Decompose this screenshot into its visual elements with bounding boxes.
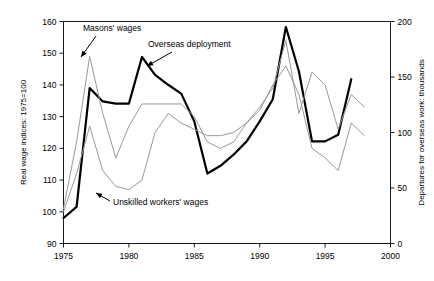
y-tick-label-left: 140	[42, 80, 56, 90]
y-tick-label-left: 100	[42, 207, 56, 217]
x-tick-label: 1990	[250, 251, 269, 261]
y-tick-label-left: 160	[42, 17, 56, 27]
series-line-unskilled-workers-wages	[64, 66, 365, 212]
y-tick-label-right: 0	[398, 239, 403, 249]
x-tick-label: 1980	[119, 251, 138, 261]
y-tick-label-right: 100	[398, 128, 412, 138]
x-tick-label: 1995	[316, 251, 335, 261]
y-axis-right-title: Departures for overseas work: thousands	[417, 59, 426, 205]
y-tick-label-left: 130	[42, 112, 56, 122]
y-tick-label-left: 90	[47, 239, 57, 249]
y-axis-left-title: Real wage indices: 1975=100	[19, 79, 28, 185]
x-tick-label: 2000	[381, 251, 400, 261]
x-tick-label: 1985	[185, 251, 204, 261]
series-line-masons-wages	[64, 41, 365, 209]
y-tick-label-right: 50	[398, 183, 408, 193]
annotation-label-overseas: Overseas deployment	[148, 39, 231, 49]
annotation-arrowhead-masons	[81, 51, 87, 57]
y-tick-label-left: 120	[42, 143, 56, 153]
y-tick-label-left: 150	[42, 48, 56, 58]
y-tick-label-right: 150	[398, 72, 412, 82]
y-tick-label-left: 110	[43, 175, 57, 185]
x-tick-label: 1975	[54, 251, 73, 261]
series-line-overseas-deployment	[64, 27, 352, 218]
y-tick-label-right: 200	[398, 17, 412, 27]
annotation-label-unskilled: Unskilled workers' wages	[113, 197, 208, 207]
annotation-label-masons: Masons' wages	[83, 23, 141, 33]
chart-figure: 9010011012013014015016005010015020019751…	[0, 0, 434, 281]
line-chart: 9010011012013014015016005010015020019751…	[0, 0, 434, 281]
